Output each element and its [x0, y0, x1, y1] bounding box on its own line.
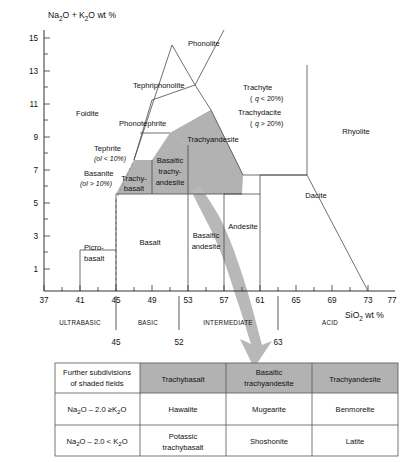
table-header-bta-line1: Basaltic [256, 368, 283, 377]
table-row2-cell-potassic-line1: Potassic [169, 432, 198, 441]
table-corner-line2: of shaded fields [70, 379, 123, 388]
table-row1-cell-benmoreite: Benmoreite [336, 405, 375, 414]
table-row2-criterion: Na2O – 2.0 < K2O [66, 437, 127, 447]
table-header-trachybasalt: Trachybasalt [161, 375, 205, 384]
table-header-bta-line2: trachyandesite [244, 379, 293, 388]
table-corner-line1: Further subdivisions [63, 368, 131, 377]
subdivisions-table: Further subdivisions of shaded fields Tr… [0, 0, 413, 462]
table-row1-criterion: Na2O – 2.0 ≥K2O [68, 405, 127, 415]
table-row2-cell-latite: Latite [346, 437, 365, 446]
table-row2-cell-shoshonite: Shoshonite [250, 437, 288, 446]
table-row1-cell-hawaiite: Hawaiite [168, 405, 197, 414]
tas-diagram-figure: Na2O + K2O wt % SiO2 wt % 15 13 11 9 7 5… [0, 0, 413, 462]
table-row1-cell-mugearite: Mugearite [252, 405, 286, 414]
table-header-trachyandesite: Trachyandesite [329, 375, 381, 384]
table-row2-cell-potassic-line2: trachybasalt [163, 443, 205, 452]
